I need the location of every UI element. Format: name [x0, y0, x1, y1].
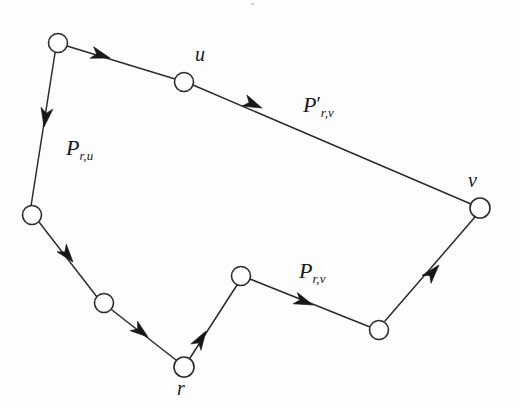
- path-label-p-ru-base: P: [66, 135, 79, 160]
- figure-container: u v r Pr,u P′r,v Pr,v: [0, 0, 519, 410]
- path-label-p-ru-subscript: r,u: [79, 148, 93, 163]
- arrowhead-rightlow-to-v: [422, 261, 444, 283]
- path-label-p-rv-prime-subscript: r,v: [321, 105, 334, 120]
- node-mid[interactable]: [232, 267, 251, 286]
- node-topleft[interactable]: [49, 34, 68, 53]
- node-lowerleft[interactable]: [95, 294, 114, 313]
- arrowhead-lowerleft-to-leftmid: [57, 244, 78, 266]
- path-label-p-rv: Pr,v: [299, 260, 326, 282]
- node-label-r: r: [177, 378, 185, 398]
- edge-rightlow-to-v: [385, 217, 475, 321]
- node-u[interactable]: [175, 73, 194, 92]
- graph-canvas: [0, 0, 519, 410]
- node-rightlow[interactable]: [370, 321, 389, 340]
- path-label-p-rv-prime: P′r,v: [303, 94, 334, 116]
- path-label-p-rv-prime-base: P: [303, 92, 316, 117]
- path-label-p-ru: Pr,u: [66, 137, 93, 159]
- edge-lowerleft-to-leftmid: [39, 222, 97, 297]
- path-label-p-rv-subscript: r,v: [312, 271, 325, 286]
- edge-topleft-to-u: [67, 46, 175, 79]
- node-label-v: v: [468, 170, 477, 190]
- node-leftmid[interactable]: [23, 206, 42, 225]
- arrowhead-mid-to-rightlow: [293, 293, 315, 311]
- arrowhead-topleft-to-u: [90, 47, 112, 64]
- node-r[interactable]: [174, 357, 194, 377]
- path-label-p-rv-base: P: [299, 258, 312, 283]
- edge-leftmid-to-topleft: [31, 53, 55, 206]
- edge-r-to-mid: [190, 285, 237, 358]
- node-v[interactable]: [470, 198, 490, 218]
- node-label-u: u: [195, 44, 205, 64]
